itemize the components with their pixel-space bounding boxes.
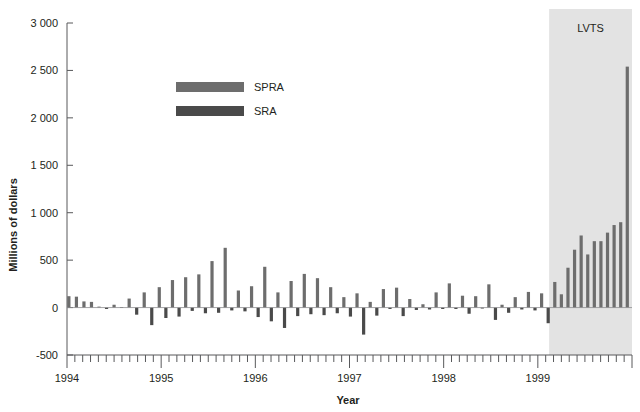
bar [270,308,273,322]
bar [237,291,240,308]
bar [263,267,266,308]
bar [626,67,629,308]
bar [184,277,187,307]
bar [580,235,583,307]
bar [257,308,260,317]
x-axis-tick-label: 1999 [526,372,550,384]
bar [586,254,589,307]
bar [573,250,576,308]
legend-label: SRA [254,105,277,117]
bar [461,296,464,308]
bar [467,308,470,314]
y-axis-title: Millions of dollars [7,178,19,272]
bar [606,233,609,308]
bar [135,308,138,315]
bar [382,289,385,308]
bar [112,305,115,308]
bar [164,308,167,318]
bar [75,297,78,308]
y-axis-tick-label: 2 000 [30,112,58,124]
lvts-label: LVTS [577,22,604,34]
y-axis-tick-label: 0 [52,302,58,314]
bar [540,293,543,307]
bar [276,292,279,307]
x-axis-tick-label: 1995 [149,372,173,384]
chart-container: LVTS -50005001 0001 5002 0002 5003 000 1… [0,0,640,412]
x-axis-tick-label: 1996 [243,372,267,384]
bar [448,283,451,307]
bar [250,286,253,307]
bar [533,308,536,311]
bar [316,278,319,307]
y-axis-tick-label: 1 000 [30,207,58,219]
bar [395,288,398,308]
bar [150,308,153,326]
bar [553,282,556,308]
x-axis-tick-label: 1994 [55,372,79,384]
bar [217,308,220,313]
bar [593,241,596,307]
bar [90,302,93,308]
legend-swatch [176,82,244,92]
bar [309,308,312,315]
bar [342,297,345,307]
bar [204,308,207,314]
y-axis-tick-label: 3 000 [30,17,58,29]
bar [487,284,490,307]
x-axis-title: Year [336,394,360,406]
bar [421,304,424,307]
bar [224,248,227,308]
bar [375,308,378,316]
y-axis-tick-label: -500 [36,349,58,361]
bar [494,308,497,320]
bar [362,308,365,335]
bar [230,308,233,311]
bar [527,292,530,308]
bar [329,287,332,307]
y-axis-tick-label: 500 [40,254,58,266]
legend-label: SPRA [254,81,285,93]
bar [296,308,299,317]
bar [402,308,405,317]
bar [369,302,372,308]
x-axis-tick-label: 1998 [431,372,455,384]
bar [355,293,358,307]
bar [210,261,213,307]
bar [191,308,194,311]
y-axis-tick-label: 1 500 [30,159,58,171]
x-axis-tick-label: 1997 [337,372,361,384]
bar [435,292,438,307]
bar [322,308,325,316]
chart-background [0,0,640,412]
region-label-group: LVTS [577,22,604,34]
bar [599,241,602,307]
bar [560,294,563,307]
bar [613,225,616,308]
bar [514,297,517,307]
bar [566,268,569,308]
bar [474,296,477,307]
bar [82,301,85,307]
bar [349,308,352,317]
bar [619,222,622,307]
bar [303,274,306,308]
bar [158,287,161,307]
bar [290,281,293,308]
bar [408,299,411,308]
bar [197,274,200,307]
bar [171,280,174,308]
bar [547,308,550,324]
y-axis-tick-label: 2 500 [30,64,58,76]
bar [143,292,146,307]
bar [243,308,246,312]
bar [177,308,180,317]
bar [500,305,503,308]
bar-chart: LVTS -50005001 0001 5002 0002 5003 000 1… [0,0,640,412]
legend-swatch [176,106,244,116]
bar [67,296,70,307]
bar [128,299,131,308]
bar [336,308,339,314]
bar [507,308,510,313]
bar [283,308,286,328]
